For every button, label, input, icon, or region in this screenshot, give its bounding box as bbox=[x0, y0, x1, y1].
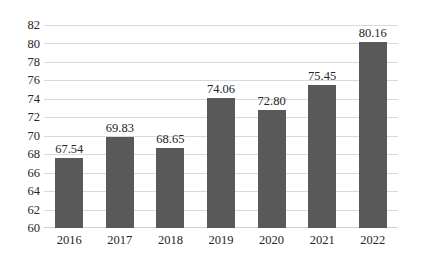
bar-2018[interactable] bbox=[156, 148, 184, 228]
y-axis-tick-label: 68 bbox=[4, 148, 40, 161]
bar-2021[interactable] bbox=[308, 85, 336, 228]
gridline bbox=[44, 25, 398, 26]
y-axis-tick-label: 74 bbox=[4, 93, 40, 106]
data-label-2020: 72.80 bbox=[242, 95, 302, 108]
y-axis-tick-label: 66 bbox=[4, 166, 40, 179]
bar-2019[interactable] bbox=[207, 98, 235, 228]
y-axis-tick-label: 80 bbox=[4, 37, 40, 50]
y-axis-tick-label: 78 bbox=[4, 56, 40, 69]
y-axis-tick-label: 64 bbox=[4, 185, 40, 198]
y-axis-tick-label: 82 bbox=[4, 19, 40, 32]
gridline bbox=[44, 43, 398, 44]
bar-chart: 82 80 78 76 74 72 70 68 66 64 62 60 bbox=[0, 0, 425, 265]
y-axis-tick-label: 76 bbox=[4, 74, 40, 87]
data-label-2016: 67.54 bbox=[39, 143, 99, 156]
data-label-2022: 80.16 bbox=[343, 27, 403, 40]
y-axis-tick-label: 72 bbox=[4, 111, 40, 124]
y-axis-tick-label: 70 bbox=[4, 129, 40, 142]
bar-2022[interactable] bbox=[359, 42, 387, 228]
data-label-2021: 75.45 bbox=[292, 70, 352, 83]
gridline bbox=[44, 62, 398, 63]
y-axis-tick-label: 60 bbox=[4, 222, 40, 235]
bar-2020[interactable] bbox=[258, 110, 286, 228]
data-label-2019: 74.06 bbox=[191, 83, 251, 96]
x-axis-tick-label-2022: 2022 bbox=[343, 234, 403, 247]
y-axis-tick-label: 62 bbox=[4, 203, 40, 216]
bar-2017[interactable] bbox=[106, 137, 134, 228]
bar-2016[interactable] bbox=[55, 158, 83, 228]
data-label-2018: 68.65 bbox=[140, 133, 200, 146]
